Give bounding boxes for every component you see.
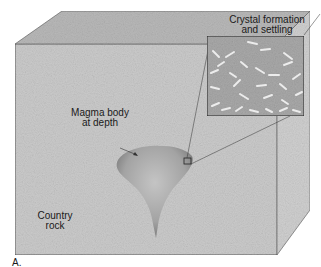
country-rock-label: Country rock bbox=[25, 211, 85, 231]
country-label-line2: rock bbox=[25, 221, 85, 231]
inset-title-line2: and settling bbox=[222, 25, 312, 35]
inset-title: Crystal formation and settling bbox=[222, 15, 312, 35]
crystal-inset bbox=[207, 36, 304, 116]
magma-label: Magma body at depth bbox=[60, 108, 140, 128]
magma-label-line2: at depth bbox=[60, 118, 140, 128]
panel-label: A. bbox=[12, 258, 21, 267]
